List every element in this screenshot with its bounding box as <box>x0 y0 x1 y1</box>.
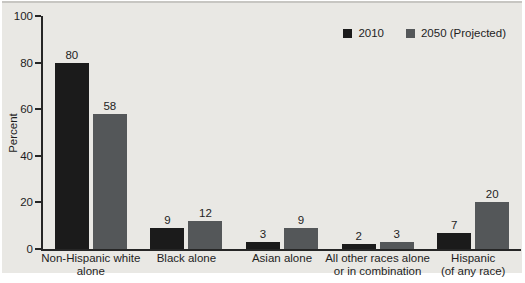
bar-column: 80 <box>55 49 89 249</box>
plot-area: 80589123923720 020406080100 <box>41 16 521 251</box>
bar-value-label: 9 <box>298 214 304 227</box>
y-tick <box>35 201 41 203</box>
category-label: Asian alone <box>234 252 330 277</box>
y-tick-label: 60 <box>0 103 33 115</box>
category-label-line: Black alone <box>157 252 216 265</box>
bar-column: 58 <box>93 100 127 249</box>
category-label-line: alone <box>77 265 105 278</box>
bar-groups: 80589123923720 <box>43 16 521 249</box>
y-tick-label: 100 <box>0 10 33 22</box>
bar-value-label: 12 <box>199 207 212 220</box>
bar-2010 <box>246 242 280 249</box>
legend-item: 2010 <box>343 27 384 39</box>
legend-label: 2050 (Projected) <box>421 27 506 39</box>
y-tick <box>35 15 41 17</box>
chart-panel: Percent 80589123923720 020406080100 2010… <box>2 1 522 273</box>
bar-column: 3 <box>380 228 414 249</box>
legend-swatch-icon <box>343 29 352 38</box>
bar-group: 39 <box>246 214 318 249</box>
bar-2050--projected- <box>380 242 414 249</box>
bar-2050--projected- <box>284 228 318 249</box>
y-tick <box>35 108 41 110</box>
y-tick-label: 40 <box>0 150 33 162</box>
bar-column: 9 <box>150 214 184 249</box>
bar-2050--projected- <box>93 114 127 249</box>
bar-2010 <box>342 244 376 249</box>
y-tick <box>35 155 41 157</box>
bar-group: 23 <box>342 228 414 249</box>
bar-group: 8058 <box>55 49 127 249</box>
category-label: Non-Hispanic whitealone <box>43 252 139 277</box>
bar-value-label: 80 <box>65 49 78 62</box>
category-label-line: Asian alone <box>252 252 312 265</box>
y-tick-label: 20 <box>0 196 33 208</box>
legend-swatch-icon <box>406 29 415 38</box>
legend-item: 2050 (Projected) <box>406 27 506 39</box>
bar-column: 7 <box>437 219 471 249</box>
bar-value-label: 20 <box>486 188 499 201</box>
bar-value-label: 9 <box>164 214 170 227</box>
bar-value-label: 3 <box>393 228 399 241</box>
category-axis-labels: Non-Hispanic whitealoneBlack aloneAsian … <box>43 252 521 277</box>
category-label: Hispanic(of any race) <box>425 252 521 277</box>
figure-page: { "figure": { "panel_background": "#e9e8… <box>0 0 525 283</box>
category-label-line: or in combination <box>334 265 422 278</box>
category-label-line: (of any race) <box>441 265 506 278</box>
bar-value-label: 3 <box>260 228 266 241</box>
y-tick <box>35 62 41 64</box>
bar-column: 2 <box>342 230 376 249</box>
bar-2050--projected- <box>475 202 509 249</box>
bar-value-label: 7 <box>451 219 457 232</box>
legend-label: 2010 <box>358 27 384 39</box>
bar-column: 9 <box>284 214 318 249</box>
bar-group: 720 <box>437 188 509 249</box>
bar-column: 12 <box>188 207 222 249</box>
category-label-line: All other races alone <box>325 252 430 265</box>
y-tick-label: 0 <box>0 243 33 255</box>
bar-2010 <box>150 228 184 249</box>
category-label-line: Hispanic <box>451 252 495 265</box>
bar-value-label: 2 <box>355 230 361 243</box>
category-label: All other races aloneor in combination <box>330 252 426 277</box>
bar-group: 912 <box>150 207 222 249</box>
y-tick-label: 80 <box>0 57 33 69</box>
bar-column: 20 <box>475 188 509 249</box>
y-tick <box>35 248 41 250</box>
category-label: Black alone <box>139 252 235 277</box>
bar-2050--projected- <box>188 221 222 249</box>
bar-2010 <box>437 233 471 249</box>
bar-column: 3 <box>246 228 280 249</box>
bar-value-label: 58 <box>103 100 116 113</box>
bar-2010 <box>55 63 89 249</box>
category-label-line: Non-Hispanic white <box>41 252 140 265</box>
legend: 20102050 (Projected) <box>343 27 506 39</box>
y-axis-title: Percent <box>7 113 19 153</box>
